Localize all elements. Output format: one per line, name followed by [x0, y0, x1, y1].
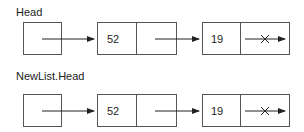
- node-value: 19: [211, 105, 223, 117]
- node-value: 52: [107, 105, 119, 117]
- node-value: 19: [211, 33, 223, 45]
- linked-list-diagram: [0, 0, 304, 132]
- node-value: 52: [107, 33, 119, 45]
